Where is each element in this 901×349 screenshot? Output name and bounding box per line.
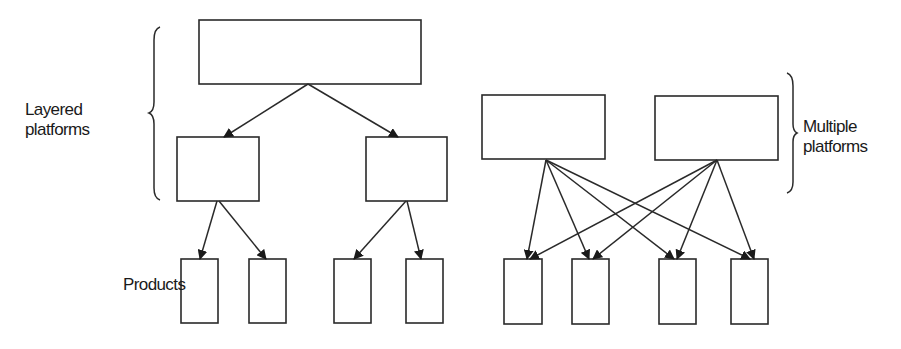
label-line: Layered — [25, 100, 90, 120]
platform-diagram: Layered platforms Multiple platforms Pro… — [0, 0, 901, 349]
multiple-product-box-2 — [572, 259, 609, 324]
multiple-product-box-3 — [659, 259, 696, 324]
label-line: Multiple — [803, 117, 868, 137]
label-line: platforms — [25, 120, 90, 140]
layered-product-box-4 — [406, 259, 443, 323]
arrow — [308, 84, 398, 137]
multiple-product-box-1 — [504, 259, 542, 324]
multiple-platforms-label: Multiple platforms — [803, 117, 868, 157]
layered-product-box-3 — [334, 259, 371, 323]
multiple-platform-box-2 — [655, 96, 778, 160]
arrow — [407, 201, 421, 259]
arrow — [717, 160, 754, 259]
layered-product-box-1 — [181, 259, 218, 323]
arrow — [224, 84, 308, 137]
arrow — [527, 160, 546, 259]
arrow — [354, 201, 406, 259]
layered-mid-platform-box-2 — [366, 137, 447, 201]
multiple-brace — [787, 73, 797, 193]
arrow — [546, 160, 750, 259]
arrow — [219, 201, 266, 259]
arrow — [530, 160, 717, 259]
products-label: Products — [123, 275, 185, 295]
layered-product-box-2 — [249, 259, 286, 323]
label-line: platforms — [803, 137, 868, 157]
layered-platforms-label: Layered platforms — [25, 100, 90, 140]
multiple-platform-box-1 — [482, 95, 605, 159]
layered-top-platform-box — [199, 20, 421, 84]
diagram-graphics — [0, 0, 901, 349]
multiple-product-box-4 — [731, 259, 768, 324]
arrow — [677, 160, 717, 259]
layered-mid-platform-box-1 — [177, 137, 259, 201]
layered-brace — [149, 27, 160, 200]
arrow — [546, 160, 589, 259]
arrow — [200, 201, 217, 259]
